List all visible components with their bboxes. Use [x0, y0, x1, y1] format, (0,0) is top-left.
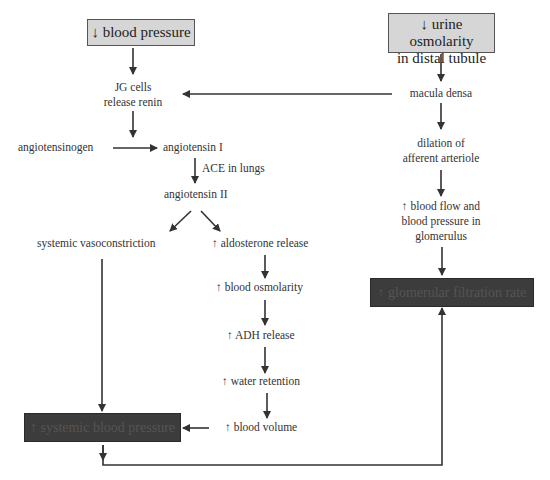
node-blood-osmolarity: ↑ blood osmolarity	[216, 280, 303, 295]
arrow-angII-to-aldo	[201, 211, 220, 231]
arrow-angII-to-vaso	[170, 211, 191, 231]
outcome-box-systemic-bp: ↑ systemic blood pressure	[24, 413, 181, 442]
blood-pressure-label: ↓ blood pressure	[91, 24, 190, 40]
flow-line2: blood pressure in	[386, 214, 496, 229]
urine-osmolarity-line2: in distal tubule	[389, 50, 494, 67]
node-systemic-vasoconstriction: systemic vasoconstriction	[37, 236, 156, 251]
node-angiotensinogen: angiotensinogen	[18, 140, 93, 155]
start-box-blood-pressure: ↓ blood pressure	[87, 19, 195, 46]
start-box-urine-osmolarity: ↓ urine osmolarity in distal tubule	[388, 13, 495, 53]
jg-line1: JG cells	[93, 80, 173, 95]
node-angiotensin-ii: angiotensin II	[164, 187, 228, 202]
urine-osmolarity-line1: ↓ urine osmolarity	[389, 16, 494, 50]
node-blood-volume: ↑ blood volume	[225, 420, 297, 435]
dilation-line1: dilation of	[386, 136, 496, 151]
node-aldosterone-release: ↑ aldosterone release	[212, 236, 308, 251]
node-adh-release: ↑ ADH release	[227, 328, 295, 343]
node-glomerular-blood-flow: ↑ blood flow and blood pressure in glome…	[386, 199, 496, 244]
node-jg-cells: JG cells release renin	[93, 80, 173, 110]
systemic-bp-label: ↑ systemic blood pressure	[30, 420, 175, 435]
dilation-line2: afferent arteriole	[386, 151, 496, 166]
label-ace-in-lungs: ACE in lungs	[202, 162, 265, 174]
flow-line3: glomerulus	[386, 229, 496, 244]
gfr-label: ↑ glomerular filtration rate	[378, 285, 527, 300]
jg-line2: release renin	[93, 95, 173, 110]
node-angiotensin-i: angiotensin I	[163, 140, 223, 155]
node-water-retention: ↑ water retention	[222, 374, 300, 389]
flow-line1: ↑ blood flow and	[386, 199, 496, 214]
node-macula-densa: macula densa	[396, 86, 486, 101]
outcome-box-gfr: ↑ glomerular filtration rate	[370, 278, 534, 307]
node-dilation-afferent-arteriole: dilation of afferent arteriole	[386, 136, 496, 166]
